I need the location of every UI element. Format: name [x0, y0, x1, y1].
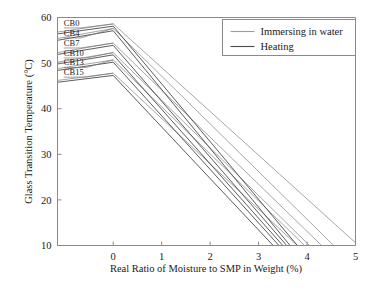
sample-label: CB4 [64, 28, 80, 38]
x-tick-label: 5 [353, 251, 358, 262]
sample-label: CB0 [64, 18, 80, 28]
x-tick-label: 1 [159, 251, 164, 262]
chart-legend: Immersing in waterHeating [223, 20, 356, 56]
x-tick-label: 3 [256, 251, 261, 262]
glass-transition-temperature-line-chart: Immersing in waterHeating CB0CB4CB7CB10C… [0, 0, 374, 295]
chart-figure: Immersing in waterHeating CB0CB4CB7CB10C… [0, 0, 374, 295]
y-tick-label: 30 [41, 149, 52, 160]
series-line [58, 73, 298, 245]
sample-label: CB10 [64, 48, 84, 58]
series-line [58, 62, 279, 245]
y-tick-label: 40 [41, 103, 52, 114]
series-line [58, 28, 334, 245]
y-tick-label: 60 [41, 12, 52, 23]
series-line [58, 75, 274, 245]
x-axis-title: Real Ratio of Moisture to SMP in Weight … [57, 263, 355, 274]
series-line [58, 53, 310, 246]
sample-label: CB15 [64, 67, 84, 77]
x-tick-label: 0 [111, 251, 116, 262]
x-tick-label: 4 [304, 251, 310, 262]
series-layer [58, 24, 356, 246]
legend-label: Heating [261, 41, 295, 52]
y-tick-label: 20 [41, 195, 52, 206]
y-tick-label: 10 [41, 240, 52, 251]
x-tick-label: 2 [208, 251, 213, 262]
sample-label: CB13 [64, 57, 84, 67]
legend-label: Immersing in water [261, 26, 344, 37]
series-line [58, 26, 298, 245]
y-tick-label: 50 [41, 58, 52, 69]
series-line [58, 55, 283, 246]
sample-label: CB7 [64, 38, 80, 48]
y-axis-title: Glass Transition Temperature (°C) [23, 42, 34, 222]
